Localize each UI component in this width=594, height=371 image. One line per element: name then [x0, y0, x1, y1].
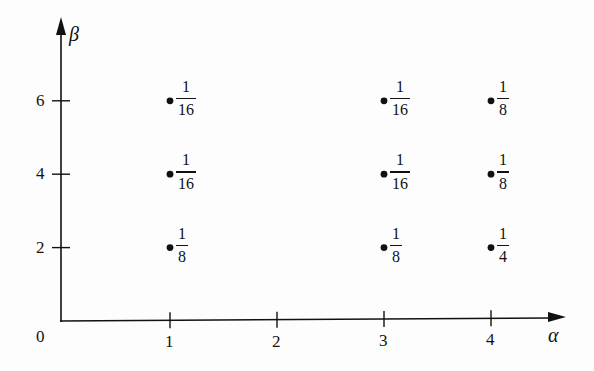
probability-label: 18: [176, 226, 188, 265]
fraction-numerator: 1: [497, 226, 509, 245]
probability-label: 116: [390, 152, 410, 191]
fraction-numerator: 1: [497, 79, 509, 98]
joint-distribution-plot: β α 0 12342461161161811611618181814: [0, 0, 594, 371]
fraction-numerator: 1: [180, 79, 192, 98]
data-point: [488, 97, 495, 104]
y-axis-label: β: [69, 23, 79, 46]
x-axis-label: α: [548, 324, 559, 347]
fraction-numerator: 1: [176, 226, 188, 245]
probability-label: 18: [497, 152, 509, 191]
fraction-numerator: 1: [180, 152, 192, 171]
probability-label: 18: [390, 226, 402, 265]
fraction-denominator: 8: [390, 246, 402, 265]
data-point: [381, 97, 388, 104]
data-point: [381, 171, 388, 178]
fraction-denominator: 16: [176, 173, 196, 192]
fraction-numerator: 1: [390, 226, 402, 245]
fraction-denominator: 16: [390, 99, 410, 118]
probability-label: 116: [176, 79, 196, 118]
fraction-denominator: 16: [390, 173, 410, 192]
fraction-numerator: 1: [394, 152, 406, 171]
fraction-denominator: 8: [176, 246, 188, 265]
data-point: [488, 244, 495, 251]
x-axis-arrow-icon: [548, 312, 566, 322]
y-tick-label: 6: [36, 92, 45, 109]
fraction-denominator: 16: [176, 99, 196, 118]
data-point: [381, 244, 388, 251]
fraction-denominator: 8: [497, 99, 509, 118]
fraction-denominator: 8: [497, 173, 509, 192]
fraction-denominator: 4: [497, 246, 509, 265]
probability-label: 18: [497, 79, 509, 118]
probability-label: 14: [497, 226, 509, 265]
data-point: [167, 97, 174, 104]
probability-label: 116: [176, 152, 196, 191]
fraction-numerator: 1: [394, 79, 406, 98]
data-point: [167, 244, 174, 251]
data-point: [167, 171, 174, 178]
y-tick-label: 2: [36, 239, 45, 256]
x-tick-label: 2: [272, 333, 281, 350]
y-axis-arrow-icon: [56, 17, 66, 35]
fraction-numerator: 1: [497, 152, 509, 171]
x-tick-label: 4: [486, 331, 495, 348]
data-points: [167, 97, 495, 251]
x-axis-line: [60, 318, 552, 321]
origin-label: 0: [36, 328, 45, 345]
data-point: [488, 171, 495, 178]
x-tick-label: 1: [165, 333, 174, 350]
x-tick-label: 3: [379, 332, 388, 349]
probability-label: 116: [390, 79, 410, 118]
y-tick-label: 4: [36, 165, 45, 182]
